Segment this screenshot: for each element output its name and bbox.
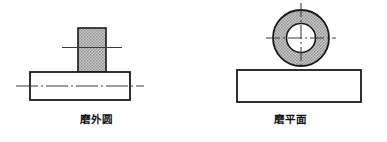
grinding-wheel-block — [78, 28, 106, 72]
cylindrical-grinding-diagram — [0, 0, 193, 112]
workpiece-plate — [237, 70, 361, 102]
caption-surface-grinding: 磨平面 — [194, 112, 387, 126]
caption-cylindrical-grinding: 磨外圆 — [0, 112, 193, 126]
panel-cylindrical-grinding: 磨外圆 — [0, 0, 193, 142]
surface-grinding-diagram — [194, 0, 387, 112]
panel-surface-grinding: 磨平面 — [194, 0, 387, 142]
grinding-operations-figure: 磨外圆 — [0, 0, 387, 142]
